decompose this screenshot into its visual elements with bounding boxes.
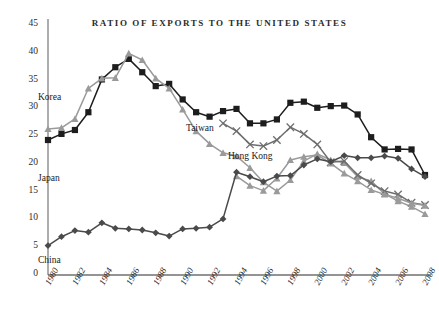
- data-point-marker: [112, 64, 118, 70]
- y-tick-35: 35: [12, 74, 38, 84]
- series-label-japan: Japan: [38, 173, 60, 183]
- data-point-marker: [382, 146, 388, 152]
- data-point-marker: [85, 109, 91, 115]
- data-point-marker: [287, 124, 294, 131]
- data-point-marker: [166, 233, 173, 240]
- data-point-marker: [381, 153, 388, 160]
- data-point-marker: [328, 103, 334, 109]
- y-tick-30: 30: [12, 101, 38, 111]
- data-point-marker: [395, 146, 401, 152]
- data-point-marker: [219, 120, 226, 127]
- data-point-marker: [139, 57, 146, 64]
- data-point-marker: [301, 99, 307, 105]
- data-point-marker: [193, 109, 199, 115]
- series-label-korea: Korea: [38, 92, 61, 102]
- data-point-marker: [45, 137, 51, 143]
- y-tick-45: 45: [12, 18, 38, 28]
- y-tick-0: 0: [12, 268, 38, 278]
- y-tick-40: 40: [12, 46, 38, 56]
- data-point-marker: [368, 134, 374, 140]
- data-point-marker: [58, 131, 64, 137]
- data-point-marker: [193, 225, 200, 232]
- data-point-marker: [220, 108, 226, 114]
- y-tick-10: 10: [12, 212, 38, 222]
- data-point-marker: [273, 136, 280, 143]
- data-point-marker: [71, 115, 78, 122]
- data-point-marker: [125, 225, 132, 232]
- series-taiwan: [219, 120, 428, 209]
- y-tick-25: 25: [12, 129, 38, 139]
- data-point-marker: [112, 225, 119, 232]
- series-label-hong-kong: Hong Kong: [228, 151, 273, 161]
- data-point-marker: [247, 120, 253, 126]
- data-point-marker: [233, 127, 240, 134]
- data-point-marker: [139, 69, 145, 75]
- data-point-marker: [354, 154, 361, 161]
- y-tick-20: 20: [12, 157, 38, 167]
- data-point-marker: [153, 83, 159, 89]
- data-point-marker: [274, 116, 280, 122]
- chart-figure: RATIO OF EXPORTS TO THE UNITED STATES 05…: [0, 0, 439, 319]
- data-point-marker: [206, 114, 212, 120]
- data-point-marker: [72, 127, 78, 133]
- data-point-marker: [421, 210, 428, 217]
- data-point-marker: [233, 169, 240, 176]
- data-point-marker: [179, 106, 186, 113]
- data-point-marker: [179, 225, 186, 232]
- y-tick-15: 15: [12, 185, 38, 195]
- data-point-marker: [139, 227, 146, 234]
- data-point-marker: [314, 141, 321, 148]
- data-point-marker: [314, 105, 320, 111]
- data-point-marker: [247, 173, 254, 180]
- y-tick-5: 5: [12, 240, 38, 250]
- series-line: [223, 123, 425, 205]
- data-point-marker: [206, 224, 213, 231]
- data-point-marker: [287, 100, 293, 106]
- data-point-marker: [300, 130, 307, 137]
- data-point-marker: [408, 146, 414, 152]
- data-point-marker: [341, 102, 347, 108]
- data-point-marker: [220, 215, 227, 222]
- data-point-marker: [233, 106, 239, 112]
- data-point-marker: [368, 154, 375, 161]
- series-label-taiwan: Taiwan: [186, 123, 214, 133]
- data-point-marker: [273, 173, 280, 180]
- series-label-china: China: [38, 255, 61, 265]
- data-point-marker: [152, 229, 159, 236]
- data-point-marker: [72, 227, 79, 234]
- data-point-marker: [125, 50, 132, 57]
- series-china: [45, 152, 429, 249]
- data-point-marker: [260, 120, 266, 126]
- data-point-marker: [180, 96, 186, 102]
- data-point-marker: [355, 111, 361, 117]
